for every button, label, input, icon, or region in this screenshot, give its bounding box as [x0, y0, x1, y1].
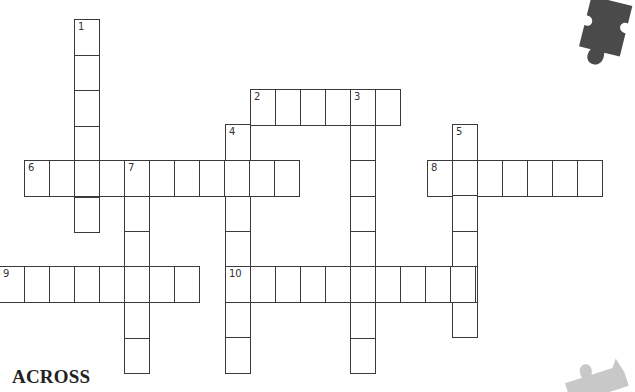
crossword-cell[interactable]: 7 — [124, 160, 150, 197]
crossword-cell[interactable] — [99, 160, 125, 197]
crossword-cell[interactable] — [274, 160, 300, 197]
crossword-cell[interactable] — [502, 160, 528, 197]
crossword-cell[interactable]: 9 — [0, 266, 25, 303]
crossword-cell[interactable] — [477, 160, 503, 197]
crossword-cell[interactable] — [249, 160, 275, 197]
crossword-cell[interactable] — [250, 266, 276, 303]
clue-number: 3 — [354, 92, 360, 102]
crossword-cell[interactable] — [552, 160, 578, 197]
crossword-cell[interactable]: 4 — [225, 124, 251, 161]
crossword-cell[interactable] — [149, 160, 175, 197]
crossword-cell[interactable] — [350, 196, 376, 233]
crossword-cell[interactable] — [224, 160, 250, 197]
crossword-cell[interactable] — [124, 196, 150, 233]
crossword-cell[interactable] — [99, 266, 125, 303]
crossword-cell[interactable]: 6 — [24, 160, 50, 197]
crossword-cell[interactable] — [275, 89, 301, 126]
clue-number: 6 — [28, 163, 34, 173]
crossword-cell[interactable] — [74, 266, 100, 303]
crossword-cell[interactable]: 1 — [74, 19, 100, 56]
crossword-cell[interactable] — [124, 266, 150, 303]
crossword-cell[interactable] — [350, 125, 376, 162]
puzzle-piece-icon — [573, 0, 635, 72]
crossword-cell[interactable] — [452, 231, 478, 268]
crossword-cell[interactable] — [577, 160, 603, 197]
crossword-cell[interactable] — [425, 266, 451, 303]
crossword-cell[interactable] — [300, 89, 326, 126]
crossword-cell[interactable] — [225, 231, 251, 268]
crossword-cell[interactable] — [124, 302, 150, 339]
across-heading: ACROSS — [12, 366, 90, 388]
crossword-cell[interactable] — [325, 266, 351, 303]
clue-number: 1 — [78, 22, 84, 32]
crossword-cell[interactable] — [350, 231, 376, 268]
crossword-cell[interactable] — [527, 160, 553, 197]
crossword-cell[interactable] — [452, 160, 478, 197]
crossword-cell[interactable] — [275, 266, 301, 303]
crossword-cell[interactable] — [49, 160, 75, 197]
crossword-cell[interactable] — [124, 231, 150, 268]
crossword-cell[interactable] — [74, 160, 100, 197]
crossword-cell[interactable]: 10 — [225, 266, 251, 303]
crossword-cell[interactable] — [174, 160, 200, 197]
crossword-cell[interactable] — [74, 126, 100, 163]
crossword-cell[interactable] — [325, 89, 351, 126]
crossword-cell[interactable] — [375, 89, 401, 126]
crossword-cell[interactable]: 8 — [427, 160, 453, 197]
crossword-cell[interactable] — [452, 195, 478, 232]
crossword-cell[interactable] — [375, 266, 401, 303]
clue-number: 5 — [456, 127, 462, 137]
clue-number: 8 — [431, 163, 437, 173]
clue-number: 7 — [128, 163, 134, 173]
crossword-cell[interactable]: 5 — [452, 124, 478, 161]
crossword-cell[interactable] — [300, 266, 326, 303]
crossword-cell[interactable] — [450, 266, 476, 303]
crossword-cell[interactable] — [400, 266, 426, 303]
crossword-cell[interactable] — [350, 266, 376, 303]
crossword-cell[interactable] — [452, 302, 478, 339]
crossword-cell[interactable] — [49, 266, 75, 303]
crossword-cell[interactable] — [149, 266, 175, 303]
crossword-cell[interactable] — [74, 197, 100, 234]
crossword-cell[interactable] — [225, 337, 251, 374]
crossword-cell[interactable] — [174, 266, 200, 303]
clue-number: 9 — [3, 269, 9, 279]
crossword-cell[interactable] — [199, 160, 225, 197]
clue-number: 10 — [229, 269, 242, 279]
crossword-cell[interactable] — [350, 160, 376, 197]
crossword-cell[interactable] — [350, 338, 376, 375]
crossword-cell[interactable] — [225, 302, 251, 339]
crossword-cell[interactable] — [74, 55, 100, 92]
crossword-cell[interactable] — [124, 338, 150, 375]
puzzle-piece-faded-icon — [560, 352, 630, 392]
crossword-cell[interactable] — [350, 302, 376, 339]
crossword-cell[interactable]: 2 — [250, 89, 276, 126]
crossword-cell[interactable] — [74, 90, 100, 127]
clue-number: 2 — [254, 92, 260, 102]
crossword-cell[interactable] — [24, 266, 50, 303]
crossword-cell[interactable] — [225, 195, 251, 232]
crossword-cell[interactable]: 3 — [350, 89, 376, 126]
clue-number: 4 — [229, 127, 235, 137]
